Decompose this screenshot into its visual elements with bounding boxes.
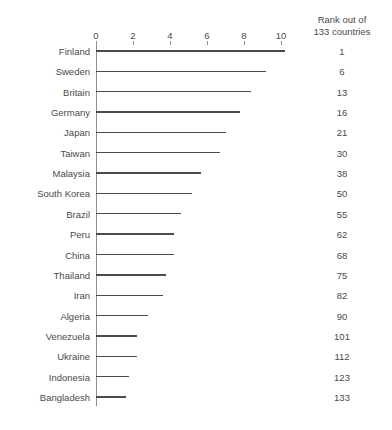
category-label-algeria: Algeria [60, 310, 96, 321]
bar-indonesia [96, 376, 129, 377]
category-label-thailand: Thailand [54, 269, 96, 280]
rank-value-thailand: 75 [337, 269, 348, 280]
rank-value-peru: 62 [337, 229, 348, 240]
category-label-iran: Iran [74, 290, 96, 301]
rank-value-germany: 16 [337, 107, 348, 118]
rank-value-venezuela: 101 [334, 330, 350, 341]
rank-value-south-korea: 50 [337, 188, 348, 199]
bar-britain [96, 91, 251, 92]
y-axis-line [96, 45, 97, 406]
rank-value-ukraine: 112 [334, 351, 349, 362]
category-label-brazil: Brazil [66, 208, 96, 219]
category-label-venezuela: Venezuela [46, 330, 96, 341]
category-label-ukraine: Ukraine [57, 351, 96, 362]
x-tick-label-10: 10 [276, 30, 287, 41]
bar-peru [96, 233, 174, 234]
horizontal-bar-chart: 0246810 FinlandSwedenBritainGermanyJapan… [0, 0, 392, 430]
rank-value-malaysia: 38 [337, 168, 348, 179]
bar-china [96, 254, 174, 255]
rank-value-china: 68 [337, 249, 348, 260]
rank-value-taiwan: 30 [337, 147, 348, 158]
x-tick-mark-10 [281, 41, 282, 45]
rank-header-line2: 133 countries [313, 26, 370, 38]
bar-sweden [96, 71, 266, 72]
rank-value-japan: 21 [337, 127, 348, 138]
rank-value-bangladesh: 133 [334, 391, 350, 402]
bar-taiwan [96, 152, 220, 153]
category-label-taiwan: Taiwan [60, 147, 96, 158]
category-label-china: China [65, 249, 96, 260]
bar-japan [96, 132, 226, 133]
x-tick-label-0: 0 [93, 30, 98, 41]
x-tick-mark-4 [170, 41, 171, 45]
x-tick-label-6: 6 [204, 30, 209, 41]
bar-south-korea [96, 193, 192, 194]
rank-value-indonesia: 123 [334, 371, 350, 382]
x-tick-mark-0 [96, 41, 97, 45]
bar-ukraine [96, 356, 137, 357]
bar-malaysia [96, 172, 201, 173]
rank-value-brazil: 55 [337, 208, 348, 219]
category-label-britain: Britain [63, 86, 96, 97]
bar-algeria [96, 315, 148, 316]
x-tick-label-4: 4 [167, 30, 172, 41]
bar-finland [96, 50, 285, 51]
category-label-indonesia: Indonesia [49, 371, 96, 382]
category-label-japan: Japan [64, 127, 96, 138]
x-tick-label-2: 2 [130, 30, 135, 41]
x-tick-mark-6 [207, 41, 208, 45]
rank-value-britain: 13 [337, 86, 348, 97]
rank-column-header: Rank out of 133 countries [313, 14, 370, 38]
rank-value-finland: 1 [339, 46, 344, 57]
rank-value-sweden: 6 [339, 66, 344, 77]
x-tick-mark-8 [244, 41, 245, 45]
bar-germany [96, 111, 240, 112]
rank-value-algeria: 90 [337, 310, 348, 321]
x-tick-mark-2 [133, 41, 134, 45]
rank-header-line1: Rank out of [313, 14, 370, 26]
category-label-malaysia: Malaysia [53, 168, 97, 179]
category-label-bangladesh: Bangladesh [40, 391, 96, 402]
category-label-sweden: Sweden [56, 66, 96, 77]
bar-venezuela [96, 335, 137, 336]
category-label-peru: Peru [70, 229, 96, 240]
x-tick-label-8: 8 [241, 30, 246, 41]
bar-thailand [96, 274, 166, 275]
bar-bangladesh [96, 396, 126, 397]
category-label-finland: Finland [59, 46, 96, 57]
bar-iran [96, 295, 163, 296]
rank-value-iran: 82 [337, 290, 348, 301]
category-label-south-korea: South Korea [37, 188, 96, 199]
bar-brazil [96, 213, 181, 214]
category-label-germany: Germany [51, 107, 96, 118]
